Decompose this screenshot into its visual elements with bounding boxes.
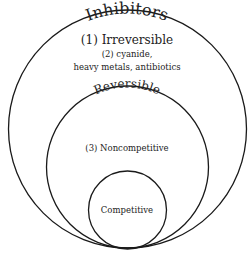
reversible-circle xyxy=(47,86,209,248)
noncompetitive-label: (3) Noncompetitive xyxy=(85,143,168,153)
inhibitors-label: Inhibitors xyxy=(83,0,171,25)
heavy-metals-label: heavy metals, antibiotics xyxy=(73,62,180,72)
competitive-label: Competitive xyxy=(101,205,153,215)
cyanide-label: (2) cyanide, xyxy=(102,49,153,59)
inhibitors-diagram: Inhibitors (1) Irreversible (2) cyanide,… xyxy=(0,0,250,253)
irreversible-label: (1) Irreversible xyxy=(81,33,173,47)
reversible-label: Reversible xyxy=(92,77,163,98)
